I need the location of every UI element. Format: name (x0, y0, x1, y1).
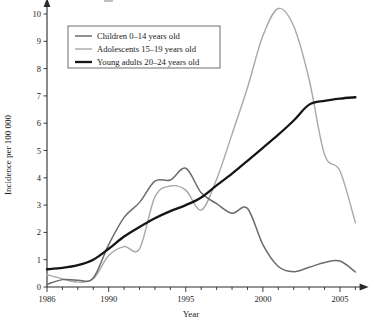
x-tick-label: 1986 (39, 294, 56, 304)
y-tick-label: 1 (37, 255, 41, 265)
y-tick-label: 9 (37, 36, 41, 46)
line-chart: 01234567891019861990199520002005 Childre… (0, 0, 382, 322)
y-tick-label: 3 (37, 200, 41, 210)
legend-label-adolescents: Adolescents 15–19 years old (97, 44, 197, 54)
legend-label-young-adults: Young adults 20–24 years old (97, 57, 200, 67)
x-tick-label: 2005 (331, 294, 348, 304)
cropped-caption-mark (104, 0, 113, 2)
y-tick-label: 6 (37, 118, 41, 128)
x-tick-label: 1990 (100, 294, 117, 304)
chart-legend[interactable]: Children 0–14 years oldAdolescents 15–19… (68, 26, 220, 68)
y-tick-label: 7 (37, 91, 41, 101)
x-tick-label: 2000 (254, 294, 271, 304)
legend-label-children: Children 0–14 years old (97, 31, 181, 41)
x-axis-title: Year (183, 309, 200, 319)
x-tick-label: 1995 (177, 294, 194, 304)
chart-root: 01234567891019861990199520002005 Childre… (0, 0, 382, 322)
y-tick-label: 2 (37, 227, 41, 237)
y-tick-label: 10 (33, 9, 42, 19)
y-tick-label: 0 (37, 282, 41, 292)
y-axis-title: Incidence per 100 000 (3, 114, 13, 195)
y-tick-label: 5 (37, 146, 41, 156)
y-tick-label: 8 (37, 64, 41, 74)
